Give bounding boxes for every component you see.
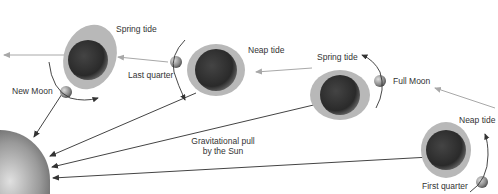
label-new-moon: New Moon [12,87,53,96]
label-neap-tide-1: Neap tide [248,46,284,55]
label-full-moon: Full Moon [393,77,430,86]
earth-spring-tide-1 [54,17,125,97]
label-neap-tide-2: Neap tide [459,116,495,125]
label-gravity-line1: Gravitational pull [178,137,268,146]
label-spring-tide-2: Spring tide [317,53,358,62]
tides-diagram [0,0,498,194]
label-gravitational-pull: Gravitational pull by the Sun [178,137,268,155]
moon-full-icon [374,75,386,87]
label-last-quarter: Last quarter [128,71,173,80]
label-spring-tide-1: Spring tide [116,25,157,34]
earth-spring-tide-2 [310,70,370,120]
moon-first-quarter-icon [476,176,488,188]
sun-icon [0,130,50,194]
earth-neap-tide-1 [187,44,245,96]
label-first-quarter: First quarter [422,182,468,191]
moon-last-quarter-icon [170,56,182,68]
earth-neap-tide-2 [421,122,471,178]
label-gravity-line2: by the Sun [178,147,268,156]
